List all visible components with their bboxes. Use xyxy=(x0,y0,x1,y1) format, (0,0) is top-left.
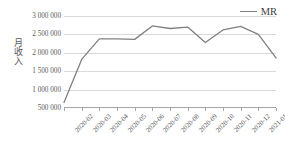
x-tick-label: 2020-08 xyxy=(179,112,201,134)
y-tick-label: 2 000 000 xyxy=(32,49,61,57)
x-tick-label: 2020-12 xyxy=(250,112,272,134)
y-tick-label: 3 000 000 xyxy=(32,12,61,20)
y-tick-label: 1 500 000 xyxy=(32,67,61,75)
x-axis-tick-labels: 2020-022020-032020-042020-052020-062020-… xyxy=(64,111,276,155)
y-tick-label: 2 500 000 xyxy=(32,30,61,38)
series-polyline-mr xyxy=(64,26,276,103)
y-tick-label: 500 000 xyxy=(38,104,61,112)
x-tick-mark xyxy=(276,108,277,111)
x-tick-label: 2020-03 xyxy=(91,112,113,134)
line-chart: MR 月收入 500 0001 000 0001 500 0002 000 00… xyxy=(0,0,285,158)
x-tick-label: 2020-09 xyxy=(197,112,219,134)
y-axis-tick-labels: 500 0001 000 0001 500 0002 000 0002 500 … xyxy=(22,16,63,108)
x-tick-label: 2020-11 xyxy=(232,112,254,134)
plot-area xyxy=(64,16,276,108)
legend-line-swatch-mr xyxy=(240,11,257,12)
x-tick-label: 2020-02 xyxy=(73,112,95,134)
x-tick-label: 2020-05 xyxy=(126,112,148,134)
x-tick-label: 2020-06 xyxy=(144,112,166,134)
series-line-mr xyxy=(64,16,276,108)
y-tick-label: 1 000 000 xyxy=(32,86,61,94)
